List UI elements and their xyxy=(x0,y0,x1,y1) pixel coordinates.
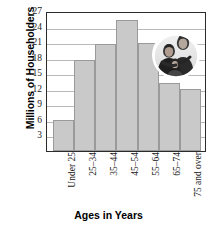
y-axis-tick-label: 27 xyxy=(22,7,42,17)
bar xyxy=(180,89,201,151)
y-axis-tick-label: 3 xyxy=(22,132,42,142)
x-axis-tick-label: 75 and over xyxy=(193,152,203,197)
y-axis-tick-label: 6 xyxy=(22,116,42,126)
y-axis-tick-label: 9 xyxy=(22,101,42,111)
y-axis-tick-label: 21 xyxy=(22,38,42,48)
x-axis-tick-label: 45–54 xyxy=(130,152,140,176)
x-axis-tick-label: 65–74 xyxy=(172,152,182,176)
bar xyxy=(74,60,95,151)
x-axis-title: Ages in Years xyxy=(0,209,217,221)
x-axis-tick-label: 35–44 xyxy=(109,152,119,176)
y-axis-tick-label: 12 xyxy=(22,85,42,95)
bar xyxy=(53,120,74,151)
x-axis-tick-labels: Under 2525–3435–4445–5455–6465–7475 and … xyxy=(46,152,206,207)
y-axis-tick-labels: 369121518212427 xyxy=(22,12,42,152)
x-axis-tick-label: 55–64 xyxy=(151,152,161,176)
x-axis-tick-label: 25–34 xyxy=(88,152,98,176)
y-axis-tick-label: 15 xyxy=(22,69,42,79)
bar xyxy=(95,44,116,151)
bar xyxy=(159,83,180,151)
y-axis-tick-label: 24 xyxy=(22,23,42,33)
x-axis-tick-label: Under 25 xyxy=(67,152,77,188)
bar-chart-figure: Millions of Householders 369121518212427 xyxy=(0,0,217,231)
bar xyxy=(116,20,137,151)
family-photograph-oval-icon xyxy=(152,31,200,79)
y-axis-tick-label: 18 xyxy=(22,54,42,64)
